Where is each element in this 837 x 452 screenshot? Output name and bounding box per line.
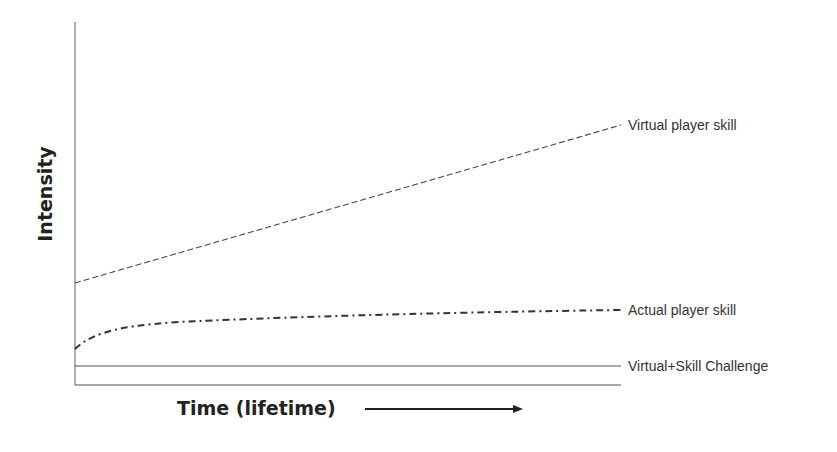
x-axis-label: Time (lifetime) bbox=[177, 397, 336, 419]
line-virtual-player-skill bbox=[75, 125, 621, 283]
legend-actual-player-skill: Actual player skill bbox=[628, 302, 736, 318]
legend-virtual-skill-challenge: Virtual+Skill Challenge bbox=[628, 358, 768, 374]
arrow-head-icon bbox=[513, 405, 523, 413]
chart-canvas bbox=[0, 0, 837, 452]
y-axis-label: Intensity bbox=[34, 144, 56, 244]
legend-virtual-player-skill: Virtual player skill bbox=[628, 117, 737, 133]
line-actual-player-skill bbox=[75, 310, 621, 349]
